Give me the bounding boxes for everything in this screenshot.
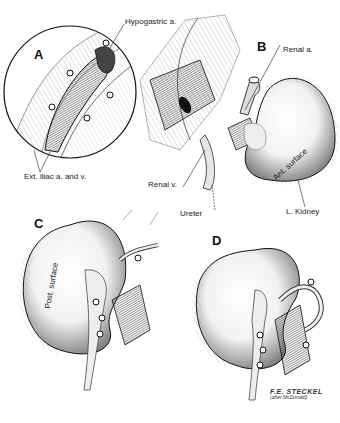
panel-d-letter: D (212, 234, 221, 247)
panel-a-letter: A (34, 48, 43, 61)
panel-c-letter: C (34, 217, 43, 230)
panel-d-drawing (196, 248, 321, 400)
signature-credit: (after McDonald) (270, 395, 323, 400)
label-ureter: Ureter (180, 210, 202, 218)
panel-b-letter: B (257, 40, 266, 53)
label-renal-vein: Renal v. (148, 181, 177, 189)
label-external-iliac-vessels: Ext. iliac a. and v. (24, 173, 86, 181)
surgical-illustration: A B C D Hypogastric a. Ext. iliac a. and… (0, 0, 340, 423)
label-hypogastric-artery: Hypogastric a. (125, 18, 176, 26)
label-renal-artery: Renal a. (283, 46, 313, 54)
panel-a-drawing (4, 20, 140, 172)
label-left-kidney: L. Kidney (286, 208, 319, 216)
artist-signature: F.E. STECKEL (after McDonald) (270, 388, 323, 401)
